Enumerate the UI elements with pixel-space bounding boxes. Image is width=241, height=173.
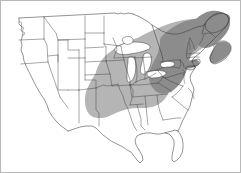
map-canvas — [0, 0, 241, 173]
distribution-range-map: Distribution range map of the contiguous… — [0, 0, 241, 173]
lake-of-the-woods — [122, 37, 133, 45]
